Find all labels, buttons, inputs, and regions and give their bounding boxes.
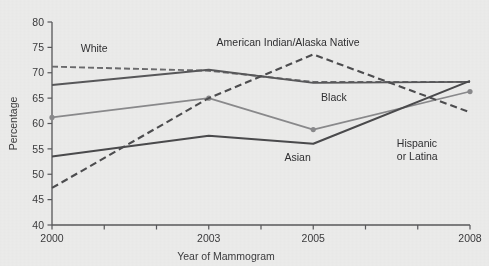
y-tick-label: 45 — [32, 193, 44, 205]
y-tick-label: 65 — [32, 92, 44, 104]
y-tick-label: 80 — [32, 16, 44, 28]
x-tick-label: 2003 — [197, 232, 221, 244]
y-axis-title: Percentage — [7, 96, 19, 150]
x-axis-tick-group: 2000200320052008 — [40, 225, 482, 244]
series-label-black: Black — [321, 91, 347, 103]
y-tick-label: 40 — [32, 219, 44, 231]
series-label-american-indian-alaska-native: American Indian/Alaska Native — [217, 36, 360, 48]
series-label-asian: Asian — [285, 151, 311, 163]
mammogram-percentage-line-chart: 404550556065707580 2000200320052008 Whit… — [0, 0, 489, 266]
chart-plot-area: 404550556065707580 2000200320052008 Whit… — [0, 0, 489, 266]
series-line-american-indian-alaska-native — [52, 54, 470, 187]
series-label-hispanic-or-latina: Hispanic — [397, 137, 437, 149]
data-point-marker — [49, 115, 54, 120]
data-point-marker — [467, 89, 472, 94]
y-axis-tick-group: 404550556065707580 — [32, 16, 52, 231]
y-tick-label: 75 — [32, 41, 44, 53]
y-tick-label: 60 — [32, 117, 44, 129]
y-tick-label: 70 — [32, 66, 44, 78]
y-tick-label: 50 — [32, 168, 44, 180]
series-label-hispanic-or-latina: or Latina — [397, 150, 438, 162]
x-tick-label: 2000 — [40, 232, 64, 244]
x-axis-title: Year of Mammogram — [177, 250, 275, 262]
data-point-marker — [311, 127, 316, 132]
x-tick-label: 2008 — [458, 232, 482, 244]
series-group — [49, 54, 472, 187]
series-label-group: WhiteBlackHispanicor LatinaAsianAmerican… — [81, 36, 438, 163]
series-label-white: White — [81, 42, 108, 54]
x-tick-label: 2005 — [302, 232, 326, 244]
series-line-hispanic-or-latina — [52, 92, 470, 130]
y-tick-label: 55 — [32, 143, 44, 155]
